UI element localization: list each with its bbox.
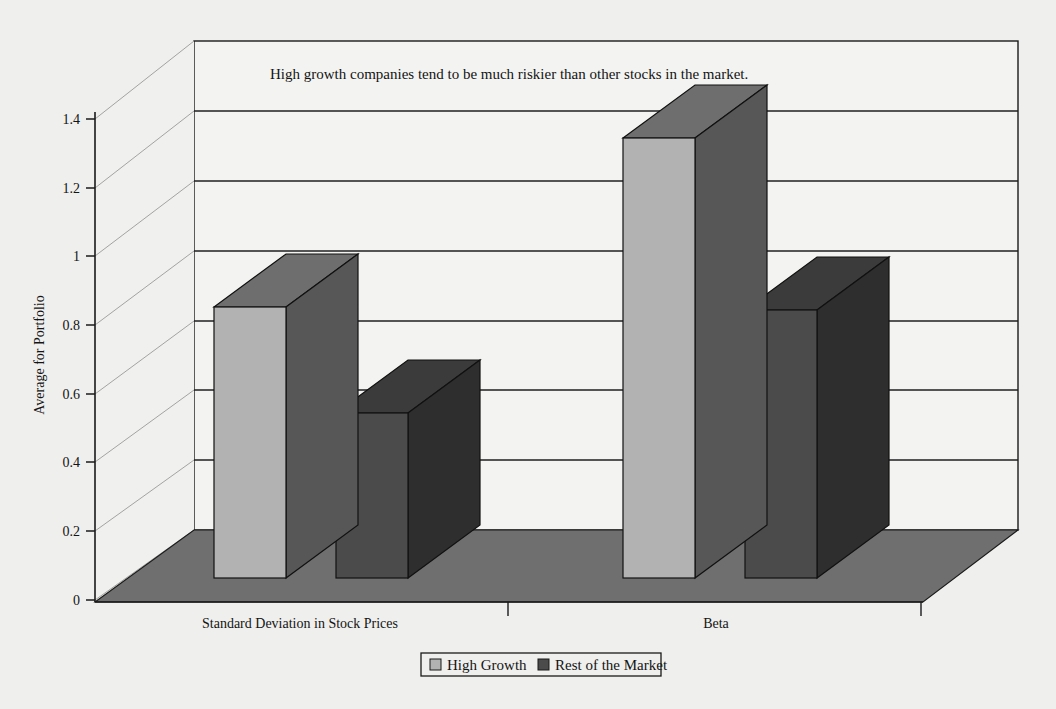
bar-side-face: [695, 85, 767, 578]
legend-label-high-growth: High Growth: [447, 657, 527, 673]
y-axis-title: Average for Portfolio: [32, 295, 47, 414]
bar-stddev-high-growth: [214, 254, 358, 578]
y-tick-label-1-2: 1.2: [63, 181, 81, 196]
y-tick-label-1-4: 1.4: [63, 112, 81, 127]
chart-annotation-text: High growth companies tend to be much ri…: [270, 66, 748, 82]
bar-front-face: [214, 307, 286, 578]
y-tick-label-1: 1: [73, 249, 80, 264]
bar-beta-high-growth: [623, 85, 767, 578]
chart-legend: High Growth Rest of the Market: [421, 653, 668, 676]
bar-side-face: [817, 257, 889, 578]
left-wall: [95, 41, 194, 602]
x-category-label-stddev: Standard Deviation in Stock Prices: [202, 616, 398, 631]
y-tick-label-0-6: 0.6: [63, 387, 81, 402]
legend-swatch-rest-of-market: [538, 659, 549, 670]
legend-swatch-high-growth: [430, 659, 441, 670]
x-category-label-beta: Beta: [703, 616, 729, 631]
chart-canvas: 1.4 1.2 1 0.8 0.6 0.4 0.2 0 Average for …: [0, 0, 1056, 709]
bar-chart-3d: 1.4 1.2 1 0.8 0.6 0.4 0.2 0 Average for …: [0, 0, 1056, 709]
y-tick-label-0-8: 0.8: [63, 318, 81, 333]
y-tick-label-0: 0: [73, 593, 80, 608]
y-tick-label-0-4: 0.4: [63, 455, 81, 470]
legend-label-rest-of-market: Rest of the Market: [555, 657, 668, 673]
bar-side-face: [286, 254, 358, 578]
y-tick-label-0-2: 0.2: [63, 524, 81, 539]
bar-front-face: [623, 138, 695, 578]
